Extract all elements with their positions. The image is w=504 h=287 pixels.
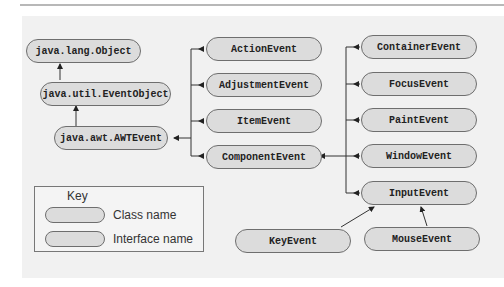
node-paintevent: PaintEvent <box>361 108 477 132</box>
node-adjustmentevent: AdjustmentEvent <box>206 73 322 97</box>
legend-interface-label: Interface name <box>113 232 193 246</box>
node-itemevent: ItemEvent <box>206 109 322 133</box>
legend-interface-swatch <box>45 231 105 247</box>
node-java-util-eventobject: java.util.EventObject <box>40 82 171 106</box>
node-keyevent: KeyEvent <box>235 229 351 253</box>
legend-class-label: Class name <box>113 208 176 222</box>
node-mouseevent: MouseEvent <box>364 227 480 251</box>
node-actionevent: ActionEvent <box>206 37 322 61</box>
legend-class-swatch <box>45 207 105 223</box>
node-java-awt-awtevent: java.awt.AWTEvent <box>54 126 168 150</box>
node-inputevent: InputEvent <box>361 181 477 205</box>
node-windowevent: WindowEvent <box>361 144 477 168</box>
legend-key: Key Class name Interface name <box>34 186 204 252</box>
node-focusevent: FocusEvent <box>361 72 477 96</box>
legend-title: Key <box>67 189 88 203</box>
node-java-lang-object: java.lang.Object <box>26 39 141 63</box>
node-containerevent: ContainerEvent <box>361 35 477 59</box>
node-componentevent: ComponentEvent <box>206 145 322 169</box>
